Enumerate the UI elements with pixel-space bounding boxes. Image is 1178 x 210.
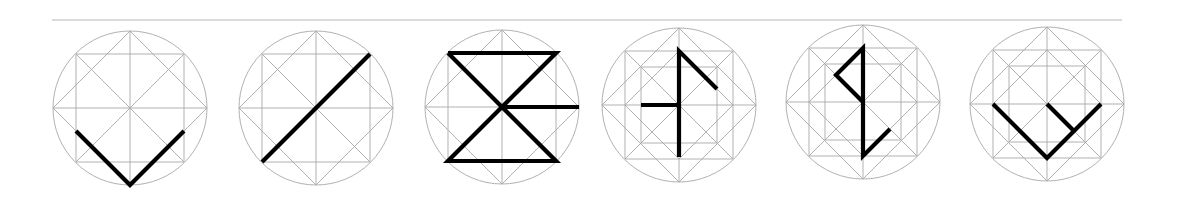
glyph-2 <box>239 31 393 185</box>
glyph-diagram <box>0 0 1178 210</box>
glyph-6 <box>970 27 1124 181</box>
construction-grid <box>53 31 207 185</box>
glyph-4 <box>602 28 756 182</box>
glyph-1 <box>53 31 207 185</box>
glyph-stroke-2 <box>1047 104 1074 131</box>
glyph-3 <box>425 30 579 184</box>
glyph-row <box>53 25 1124 185</box>
glyph-5 <box>786 25 940 179</box>
